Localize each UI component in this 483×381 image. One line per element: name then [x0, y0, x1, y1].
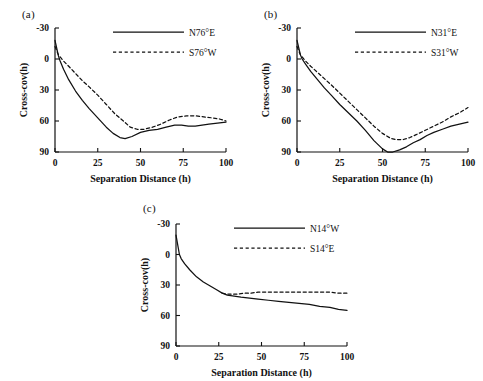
- figure-cross-covariance: (a) 9060300-300255075100Separation Dista…: [0, 0, 483, 381]
- y-tick-label: 60: [40, 116, 50, 126]
- panel-a-plot: 9060300-300255075100Separation Distance …: [0, 0, 242, 200]
- series-line-dashed: [297, 47, 468, 140]
- x-tick-label: 100: [461, 158, 476, 168]
- x-tick-label: 0: [53, 158, 58, 168]
- panel-a-label: (a): [22, 8, 35, 20]
- x-tick-label: 75: [421, 158, 431, 168]
- legend-label-dashed: S76°W: [189, 48, 217, 58]
- x-axis-title: Separation Distance (h): [332, 173, 433, 185]
- x-tick-label: 50: [378, 158, 388, 168]
- x-tick-label: 25: [93, 158, 103, 168]
- y-tick-label: 0: [286, 54, 291, 64]
- x-tick-label: 100: [340, 352, 355, 362]
- y-tick-label: 0: [44, 54, 49, 64]
- legend-label-dashed: S31°W: [431, 48, 459, 58]
- x-axis-title: Separation Distance (h): [90, 173, 191, 185]
- y-tick-label: 90: [161, 341, 171, 351]
- legend-label-solid: N14°W: [310, 224, 339, 234]
- panel-b: (b) 9060300-300255075100Separation Dista…: [242, 0, 483, 200]
- y-tick-label: 90: [282, 147, 292, 157]
- legend-label-solid: N76°E: [189, 28, 215, 38]
- y-tick-label: 0: [165, 250, 170, 260]
- x-tick-label: 25: [335, 158, 345, 168]
- y-tick-label: 30: [282, 85, 292, 95]
- y-tick-label: 60: [282, 116, 292, 126]
- y-axis-title: Cross-cov(h): [18, 63, 30, 117]
- legend-label-solid: N31°E: [431, 28, 457, 38]
- panel-b-plot: 9060300-300255075100Separation Distance …: [242, 0, 483, 200]
- panel-c-label: (c): [143, 202, 156, 214]
- series-line-dashed: [55, 47, 226, 130]
- x-tick-label: 0: [295, 158, 300, 168]
- y-axis-title: Cross-cov(h): [260, 63, 272, 117]
- panel-c-plot: 9060300-300255075100Separation Distance …: [121, 196, 363, 381]
- y-tick-label: -30: [36, 23, 49, 33]
- y-tick-label: 30: [40, 85, 50, 95]
- y-tick-label: -30: [157, 219, 170, 229]
- x-tick-label: 0: [174, 352, 179, 362]
- x-axis-title: Separation Distance (h): [211, 367, 312, 379]
- x-tick-label: 25: [214, 352, 224, 362]
- panel-b-label: (b): [264, 8, 277, 20]
- series-line-dashed: [222, 292, 347, 294]
- y-axis-title: Cross-cov(h): [139, 258, 151, 312]
- x-tick-label: 75: [179, 158, 189, 168]
- y-tick-label: 60: [161, 311, 171, 321]
- panel-c: (c) 9060300-300255075100Separation Dista…: [121, 196, 363, 381]
- x-tick-label: 50: [257, 352, 267, 362]
- y-tick-label: 90: [40, 147, 50, 157]
- x-tick-label: 75: [300, 352, 310, 362]
- panel-a: (a) 9060300-300255075100Separation Dista…: [0, 0, 242, 200]
- legend-label-dashed: S14°E: [310, 244, 335, 254]
- x-tick-label: 100: [219, 158, 234, 168]
- y-tick-label: 30: [161, 280, 171, 290]
- x-tick-label: 50: [136, 158, 146, 168]
- y-tick-label: -30: [278, 23, 291, 33]
